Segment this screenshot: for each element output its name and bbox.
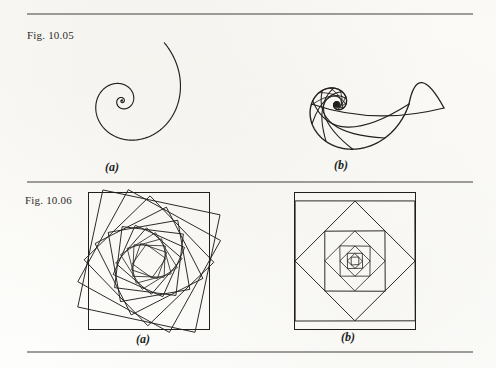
nautilus-diagram-1005b xyxy=(310,83,444,150)
spiral-curve xyxy=(96,43,181,140)
inscribed-squares-square xyxy=(295,201,415,321)
horizontal-rules xyxy=(27,14,473,352)
panel-caption-1005-a: (a) xyxy=(105,160,119,175)
spiral-diagram-1005a xyxy=(96,43,181,140)
inscribed-squares-square xyxy=(325,231,385,291)
rotating-squares-frame xyxy=(89,193,210,330)
rotating-squares-square xyxy=(131,243,166,278)
panel-caption-1006-b: (b) xyxy=(341,330,355,345)
rotating-squares-diagram-1006a xyxy=(78,190,221,333)
shell-aperture-outer-lip xyxy=(409,83,444,108)
inscribed-squares-square xyxy=(295,201,415,321)
figure-label-1005: Fig. 10.05 xyxy=(27,29,74,41)
rotating-squares-square xyxy=(78,190,220,332)
rotating-squares-square xyxy=(121,233,178,290)
inscribed-squares-diagram-1006b xyxy=(295,193,416,330)
shell-aperture-inner-lip xyxy=(311,104,444,116)
chamber-wall xyxy=(313,101,409,127)
inscribed-squares-square xyxy=(347,254,362,269)
rotating-squares-square xyxy=(95,207,203,315)
figure-label-1006: Fig. 10.06 xyxy=(25,194,72,206)
rotating-squares-square xyxy=(116,228,182,294)
inscribed-squares-square xyxy=(340,246,370,276)
shell-centre-knot xyxy=(334,101,340,107)
inscribed-squares-square xyxy=(340,246,370,276)
inscribed-squares-square xyxy=(347,253,362,268)
inscribed-squares-frame xyxy=(295,193,416,330)
figure-artwork xyxy=(0,0,496,368)
rotating-squares-square xyxy=(108,220,190,301)
figure-page: Fig. 10.05 Fig. 10.06 (a) (b) (a) (b) xyxy=(0,0,496,368)
chamber-wall xyxy=(324,88,353,149)
rotating-squares-square xyxy=(113,225,184,296)
inscribed-squares-square xyxy=(325,231,385,291)
rotating-squares-square xyxy=(132,244,165,278)
panel-caption-1005-b: (b) xyxy=(334,158,348,173)
panel-caption-1006-a: (a) xyxy=(136,332,150,347)
rotating-squares-square xyxy=(133,245,166,277)
inscribed-squares-square xyxy=(351,257,359,265)
